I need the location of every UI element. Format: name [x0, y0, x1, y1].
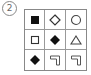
- grid-cell-1-1: [25, 10, 45, 30]
- grid-cell-2-1: [25, 30, 45, 50]
- grid-cell-3-3: [66, 50, 86, 70]
- grid-cell-1-3: [66, 10, 86, 30]
- outline-diamond-icon: [49, 14, 61, 26]
- puzzle-number-label: 2: [2, 1, 17, 16]
- grid-cell-1-2: [45, 10, 65, 30]
- filled-diamond-icon: [49, 34, 61, 46]
- grid-cell-2-2: [45, 30, 65, 50]
- outline-square-icon: [30, 35, 40, 45]
- filled-square-icon: [30, 15, 40, 25]
- grid-cell-3-2: [45, 50, 65, 70]
- corner-bracket-icon: [70, 54, 82, 66]
- corner-bracket-icon: [49, 54, 61, 66]
- outline-circle-icon: [70, 14, 82, 26]
- grid-cell-2-3: [66, 30, 86, 50]
- filled-diamond-icon: [29, 54, 41, 66]
- outline-triangle-icon: [70, 34, 82, 46]
- shape-grid: [24, 9, 87, 71]
- grid-cell-3-1: [25, 50, 45, 70]
